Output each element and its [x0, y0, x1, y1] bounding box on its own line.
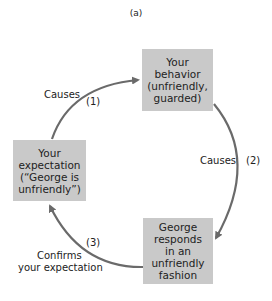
node-text: expectation [18, 159, 81, 171]
node-your-behavior: Your behavior (unfriendly, guarded) [142, 49, 213, 111]
node-text: fashion [151, 269, 204, 281]
node-text: Your [18, 147, 81, 159]
node-your-expectation: Your expectation (“George is unfriendly”… [13, 140, 86, 201]
edge-label-causes-1: Causes [44, 89, 80, 101]
edge-label-confirms-line1: Confirms [37, 250, 82, 262]
node-text: George [151, 221, 204, 233]
edge-number-3: (3) [86, 237, 100, 249]
arrow-causes-2 [214, 104, 238, 238]
edge-number-1: (1) [86, 96, 100, 108]
node-text: guarded) [147, 92, 208, 104]
node-text: unfriendly [151, 257, 204, 269]
node-text: responds [151, 233, 204, 245]
edge-label-confirms-line2: your expectation [18, 262, 103, 274]
node-text: (unfriendly, [147, 80, 208, 92]
node-text: in an [151, 245, 204, 257]
node-george-responds: George responds in an unfriendly fashion [143, 218, 213, 284]
node-text: (“George is [18, 171, 81, 183]
node-text: unfriendly”) [18, 183, 81, 195]
node-text: behavior [147, 68, 208, 80]
edge-label-causes-2: Causes [200, 155, 236, 167]
node-text: Your [147, 56, 208, 68]
edge-number-2: (2) [246, 155, 260, 167]
